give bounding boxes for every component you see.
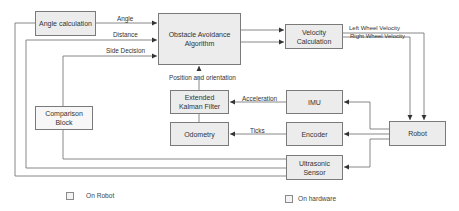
legend-on-hardware-swatch	[285, 195, 293, 203]
angle-calculation-label: Angle calculation	[39, 19, 92, 28]
legend-on-robot-label: On Robot	[86, 192, 114, 199]
velocity-calculation-block: Velocity Calculation	[285, 24, 343, 49]
distance-edge-label: Distance	[113, 31, 138, 38]
comparison-block-label: Comparison Block	[38, 109, 90, 127]
angle-edge-label: Angle	[117, 15, 133, 22]
obstacle-avoidance-block: Obstacle Avoidance Algorithm	[158, 13, 241, 65]
comparison-block: Comparison Block	[35, 106, 93, 130]
position-orientation-edge-label: Position and orientation	[169, 74, 236, 81]
imu-block: IMU	[286, 90, 343, 114]
odometry-label: Odometry	[184, 130, 215, 139]
right-wheel-velocity-label: Right Wheel Velocity	[350, 33, 405, 40]
encoder-label: Encoder	[301, 130, 327, 139]
block-diagram: Angle calculation Obstacle Avoidance Alg…	[0, 0, 459, 211]
legend-on-robot-swatch	[66, 192, 74, 200]
ticks-edge-label: Ticks	[250, 127, 265, 134]
side-decision-edge-label: Side Decision	[106, 47, 145, 54]
ekf-label: Extended Kalman Filter	[173, 93, 226, 111]
robot-block: Robot	[389, 121, 446, 146]
ultrasonic-sensor-label: Ultrasonic Sensor	[289, 159, 340, 177]
encoder-block: Encoder	[286, 122, 343, 146]
ultrasonic-sensor-block: Ultrasonic Sensor	[286, 155, 343, 180]
velocity-calculation-label: Velocity Calculation	[288, 28, 340, 46]
imu-label: IMU	[308, 98, 321, 107]
ekf-block: Extended Kalman Filter	[170, 90, 229, 114]
robot-label: Robot	[408, 129, 427, 138]
left-wheel-velocity-label: Left Wheel Velocity	[349, 25, 400, 32]
legend-on-hardware-label: On hardware	[298, 195, 336, 202]
odometry-block: Odometry	[170, 122, 229, 146]
angle-calculation-block: Angle calculation	[35, 11, 96, 36]
obstacle-avoidance-label: Obstacle Avoidance Algorithm	[161, 30, 238, 48]
acceleration-edge-label: Acceleration	[242, 95, 277, 102]
